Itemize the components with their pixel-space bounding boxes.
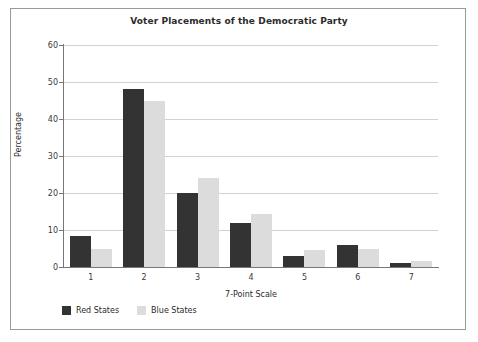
y-axis-tick-label: 50 bbox=[36, 78, 58, 87]
plot-area bbox=[64, 45, 438, 267]
gridline bbox=[64, 82, 438, 83]
bar-red-states-2 bbox=[123, 89, 144, 267]
bar-blue-states-5 bbox=[304, 250, 325, 267]
y-axis-tick-label: 40 bbox=[36, 115, 58, 124]
bar-blue-states-7 bbox=[411, 261, 432, 267]
gridline bbox=[64, 45, 438, 46]
bar-red-states-1 bbox=[70, 236, 91, 267]
chart-figure: Voter Placements of the Democratic Party… bbox=[0, 0, 478, 342]
y-axis-tick-mark bbox=[59, 230, 63, 231]
y-axis-tick-label: 30 bbox=[36, 152, 58, 161]
y-axis-tick-mark bbox=[59, 119, 63, 120]
gridline bbox=[64, 156, 438, 157]
bar-blue-states-4 bbox=[251, 214, 272, 267]
legend-entry: Red States bbox=[62, 306, 119, 315]
y-axis-tick-label: 20 bbox=[36, 189, 58, 198]
x-axis-tick-label: 5 bbox=[284, 273, 324, 282]
bar-red-states-5 bbox=[283, 256, 304, 267]
x-axis-tick-label: 2 bbox=[124, 273, 164, 282]
legend-label: Blue States bbox=[151, 306, 197, 315]
bar-red-states-4 bbox=[230, 223, 251, 267]
chart-title: Voter Placements of the Democratic Party bbox=[0, 16, 478, 26]
y-axis-title: Percentage bbox=[14, 95, 23, 175]
y-axis-tick-mark bbox=[59, 267, 63, 268]
bar-blue-states-2 bbox=[144, 101, 165, 268]
bar-red-states-6 bbox=[337, 245, 358, 267]
bar-red-states-7 bbox=[390, 263, 411, 267]
y-axis-tick-mark bbox=[59, 45, 63, 46]
y-axis-tick-label: 10 bbox=[36, 226, 58, 235]
x-axis-tick-label: 6 bbox=[338, 273, 378, 282]
y-axis-tick-labels: 0102030405060 bbox=[34, 0, 58, 342]
chart-legend: Red StatesBlue States bbox=[62, 306, 197, 315]
legend-label: Red States bbox=[76, 306, 119, 315]
bar-red-states-3 bbox=[177, 193, 198, 267]
x-axis-tick-label: 7 bbox=[391, 273, 431, 282]
y-axis-tick-mark bbox=[59, 156, 63, 157]
legend-swatch bbox=[62, 306, 71, 315]
x-axis-tick-label: 3 bbox=[178, 273, 218, 282]
x-axis-tick-label: 1 bbox=[71, 273, 111, 282]
x-axis-line bbox=[63, 267, 439, 268]
gridline bbox=[64, 119, 438, 120]
legend-swatch bbox=[137, 306, 146, 315]
bar-blue-states-1 bbox=[91, 249, 112, 268]
y-axis-tick-mark bbox=[59, 193, 63, 194]
gridline bbox=[64, 193, 438, 194]
bar-blue-states-6 bbox=[358, 249, 379, 268]
x-axis-tick-label: 4 bbox=[231, 273, 271, 282]
legend-entry: Blue States bbox=[137, 306, 197, 315]
x-axis-title: 7-Point Scale bbox=[64, 290, 438, 299]
bar-blue-states-3 bbox=[198, 178, 219, 267]
y-axis-tick-label: 0 bbox=[36, 263, 58, 272]
y-axis-tick-label: 60 bbox=[36, 41, 58, 50]
y-axis-tick-mark bbox=[59, 82, 63, 83]
